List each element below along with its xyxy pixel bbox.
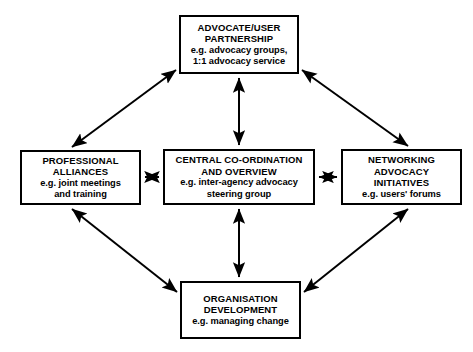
node-title: PROFESSIONAL ALLIANCES xyxy=(42,155,118,178)
connector-left-to-bottom xyxy=(72,209,177,292)
node-title: CENTRAL CO-ORDINATION AND OVERVIEW xyxy=(176,154,303,177)
node-title: ADVOCATE/USER PARTNERSHIP xyxy=(198,22,281,45)
node-title: ORGANISATION DEVELOPMENT xyxy=(203,293,277,316)
node-central-co-ordination-and-overview: CENTRAL CO-ORDINATION AND OVERVIEW e.g. … xyxy=(163,149,315,205)
node-organisation-development: ORGANISATION DEVELOPMENT e.g. managing c… xyxy=(180,281,301,339)
node-example: e.g. joint meetings and training xyxy=(40,178,121,201)
node-example: e.g. advocacy groups, 1:1 advocacy servi… xyxy=(191,45,288,68)
node-professional-alliances: PROFESSIONAL ALLIANCES e.g. joint meetin… xyxy=(20,150,141,205)
connector-left-to-top xyxy=(72,70,176,147)
node-title: NETWORKING ADVOCACY INITIATIVES xyxy=(368,154,435,189)
node-advocate-user-partnership: ADVOCATE/USER PARTNERSHIP e.g. advocacy … xyxy=(179,15,299,74)
diagram-canvas: ADVOCATE/USER PARTNERSHIP e.g. advocacy … xyxy=(0,0,473,352)
connector-bottom-to-right xyxy=(304,209,408,292)
connector-top-to-right xyxy=(302,70,408,146)
node-example: e.g. inter-agency advocacy steering grou… xyxy=(180,177,298,200)
node-example: e.g. managing change xyxy=(192,316,289,327)
node-example: e.g. users' forums xyxy=(362,189,441,200)
node-networking-advocacy-initiatives: NETWORKING ADVOCACY INITIATIVES e.g. use… xyxy=(341,149,462,205)
